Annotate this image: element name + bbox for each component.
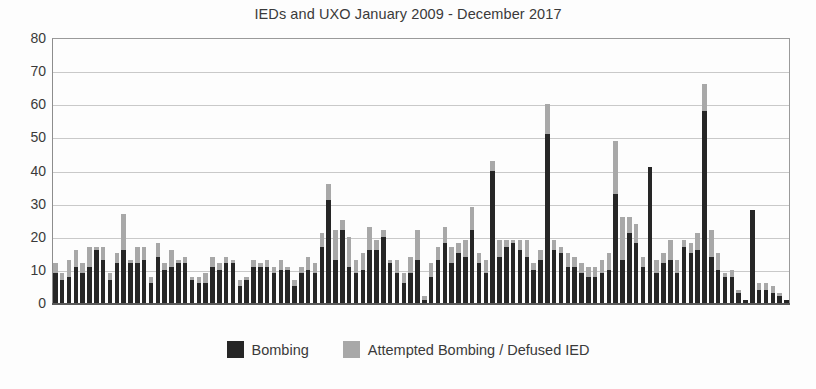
y-tick-label: 40 [0,163,46,179]
bar-segment-attempted [87,247,92,267]
legend-item[interactable]: Bombing [227,341,309,358]
bar-segment-bombing [600,273,605,303]
bar-column [292,280,297,303]
bar-segment-bombing [566,267,571,303]
bar-column [279,260,284,303]
bar-segment-attempted [449,247,454,264]
bar-segment-bombing [224,263,229,303]
y-axis: 80706050403020100 [0,38,46,303]
bar-segment-bombing [292,286,297,303]
bar-segment-attempted [156,243,161,256]
bar-segment-bombing [545,134,550,303]
bar-segment-attempted [566,253,571,266]
bar-column [367,227,372,303]
bar-column [169,250,174,303]
bar-column [559,247,564,303]
bar-segment-bombing [730,277,735,304]
bar-segment-attempted [210,257,215,267]
bar-segment-bombing [689,253,694,303]
bar-segment-attempted [484,260,489,273]
bars-layer [52,38,790,303]
bar-segment-attempted [347,237,352,267]
bar-segment-bombing [238,286,243,303]
bar-segment-bombing [333,260,338,303]
bar-segment-bombing [634,243,639,303]
bar-segment-attempted [115,253,120,263]
bar-segment-bombing [620,260,625,303]
bar-segment-bombing [449,263,454,303]
bar-column [238,280,243,303]
bar-column [736,290,741,303]
bar-segment-bombing [531,270,536,303]
bar-column [668,240,673,303]
bar-segment-bombing [162,270,167,303]
bar-column [285,267,290,303]
bar-segment-bombing [285,270,290,303]
bar-segment-bombing [641,267,646,303]
bar-segment-bombing [367,250,372,303]
bar-segment-bombing [648,167,653,303]
bar-column [340,220,345,303]
bar-column [784,300,789,303]
bar-column [470,207,475,303]
bar-segment-attempted [613,141,618,194]
bar-column [415,230,420,303]
bar-segment-attempted [326,184,331,201]
bar-column [326,184,331,303]
chart-legend: BombingAttempted Bombing / Defused IED [0,341,816,358]
bar-segment-bombing [115,263,120,303]
bar-segment-bombing [101,260,106,303]
bar-segment-bombing [463,257,468,303]
bar-segment-bombing [156,257,161,303]
bar-segment-attempted [429,263,434,276]
bar-segment-attempted [299,267,304,274]
bar-segment-bombing [279,270,284,303]
bar-segment-bombing [682,247,687,303]
bar-segment-bombing [340,230,345,303]
bar-segment-attempted [593,267,598,277]
bar-segment-attempted [313,263,318,273]
bar-segment-bombing [74,267,79,303]
bar-segment-bombing [579,273,584,303]
bar-segment-bombing [668,260,673,303]
bar-column [156,243,161,303]
bar-column [525,240,530,303]
bar-segment-bombing [395,273,400,303]
x-axis-line [52,303,790,305]
bar-segment-attempted [518,240,523,250]
bar-column [333,230,338,303]
bar-segment-attempted [149,277,154,284]
bar-segment-attempted [607,253,612,270]
legend-swatch-icon [343,341,360,358]
bar-segment-bombing [695,250,700,303]
bar-segment-attempted [408,257,413,274]
bar-column [634,224,639,304]
y-tick-label: 60 [0,96,46,112]
bar-segment-bombing [121,250,126,303]
bar-segment-bombing [197,283,202,303]
bar-segment-attempted [477,253,482,263]
bar-segment-bombing [217,270,222,303]
bar-segment-bombing [504,247,509,303]
bar-column [477,253,482,303]
bar-segment-attempted [101,247,106,260]
bar-segment-attempted [108,273,113,280]
y-tick-label: 80 [0,30,46,46]
bar-segment-bombing [750,210,755,303]
bar-column [723,273,728,303]
bar-column [108,273,113,303]
bar-segment-attempted [142,247,147,260]
bar-column [408,257,413,303]
bar-segment-bombing [654,273,659,303]
bar-segment-bombing [477,263,482,303]
bar-segment-bombing [777,296,782,303]
bar-column [702,84,707,303]
bar-column [689,243,694,303]
bar-column [429,263,434,303]
bar-column [709,230,714,303]
legend-item[interactable]: Attempted Bombing / Defused IED [343,341,590,358]
bar-segment-attempted [203,273,208,283]
bar-segment-bombing [484,273,489,303]
bar-segment-attempted [456,243,461,253]
bar-segment-bombing [716,270,721,303]
